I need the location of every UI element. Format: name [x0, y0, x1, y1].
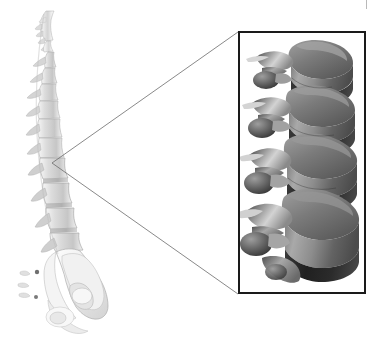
scan-artifacts-svg — [0, 0, 378, 341]
artifact-layer — [0, 0, 378, 341]
artifact-tick-right — [366, 0, 367, 9]
figure-root — [0, 0, 378, 341]
